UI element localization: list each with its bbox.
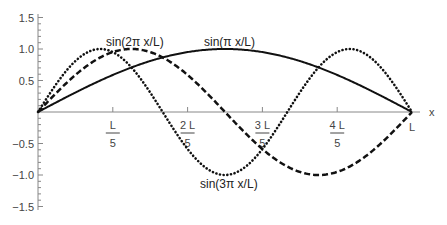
y-tick-label: 1.5 bbox=[19, 12, 34, 24]
x-tick-denominator: 5 bbox=[110, 137, 116, 149]
y-tick-label: −1.0 bbox=[12, 169, 34, 181]
label-sin-3pi: sin(3π x/L) bbox=[200, 177, 258, 191]
curve-labels: sin(2π x/L) sin(π x/L) sin(3π x/L) bbox=[106, 35, 258, 191]
x-tick-denominator: 5 bbox=[334, 137, 340, 149]
y-tick-label: 1.0 bbox=[19, 43, 34, 55]
x-tick-numerator: 4 L bbox=[330, 119, 345, 131]
chart-canvas: 1.51.00.5−0.5−1.0−1.5 L52 L53 L54 L5L x … bbox=[0, 0, 447, 225]
x-axis: L52 L53 L54 L5L x bbox=[38, 106, 435, 149]
y-tick-label: −0.5 bbox=[12, 138, 34, 150]
curve-solid bbox=[38, 49, 412, 112]
x-tick-numerator: L bbox=[409, 121, 415, 133]
label-sin-2pi: sin(2π x/L) bbox=[106, 35, 164, 49]
x-axis-label: x bbox=[429, 106, 435, 118]
label-sin-pi: sin(π x/L) bbox=[204, 35, 255, 49]
x-tick-numerator: 2 L bbox=[180, 119, 195, 131]
y-tick-label: −1.5 bbox=[12, 201, 34, 213]
y-tick-label: 0.5 bbox=[19, 75, 34, 87]
x-tick-numerator: 3 L bbox=[255, 119, 270, 131]
x-tick-numerator: L bbox=[110, 119, 116, 131]
